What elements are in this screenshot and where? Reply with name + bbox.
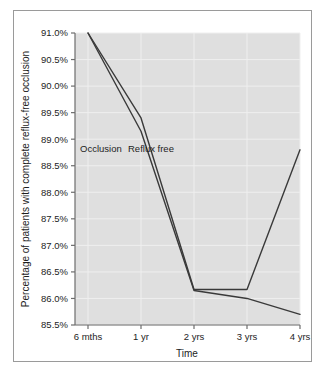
y-tick-label: 86.0% [41, 293, 68, 304]
y-tick-label: 88.0% [41, 187, 68, 198]
x-axis-ticks: 6 mths1 yr2 yrs3 yrs4 yrs [74, 325, 311, 342]
y-tick-label: 87.5% [41, 213, 68, 224]
y-tick-label: 90.5% [41, 54, 68, 65]
x-tick-label: 3 yrs [237, 331, 258, 342]
annotation-occlusion: Occlusion [80, 143, 122, 154]
y-tick-label: 87.0% [41, 240, 68, 251]
y-axis-ticks: 91.0%90.5%90.0%89.5%89.0%88.5%88.0%87.5%… [41, 27, 75, 330]
x-axis-title: Time [176, 348, 198, 359]
y-tick-label: 85.5% [41, 319, 68, 330]
plot-background [75, 33, 300, 325]
line-chart: 91.0%90.5%90.0%89.5%89.0%88.5%88.0%87.5%… [0, 0, 325, 379]
annotation-reflux-free: Reflux free [128, 143, 174, 154]
y-tick-label: 86.5% [41, 266, 68, 277]
x-tick-label: 6 mths [74, 331, 103, 342]
y-tick-label: 88.5% [41, 160, 68, 171]
x-tick-label: 4 yrs [290, 331, 311, 342]
y-tick-label: 89.5% [41, 107, 68, 118]
chart-figure: 91.0%90.5%90.0%89.5%89.0%88.5%88.0%87.5%… [0, 0, 325, 379]
x-tick-label: 1 yr [133, 331, 149, 342]
y-tick-label: 91.0% [41, 27, 68, 38]
y-axis-title: Percentage of patients with complete ref… [20, 51, 31, 307]
y-tick-label: 89.0% [41, 134, 68, 145]
y-tick-label: 90.0% [41, 80, 68, 91]
x-tick-label: 2 yrs [184, 331, 205, 342]
